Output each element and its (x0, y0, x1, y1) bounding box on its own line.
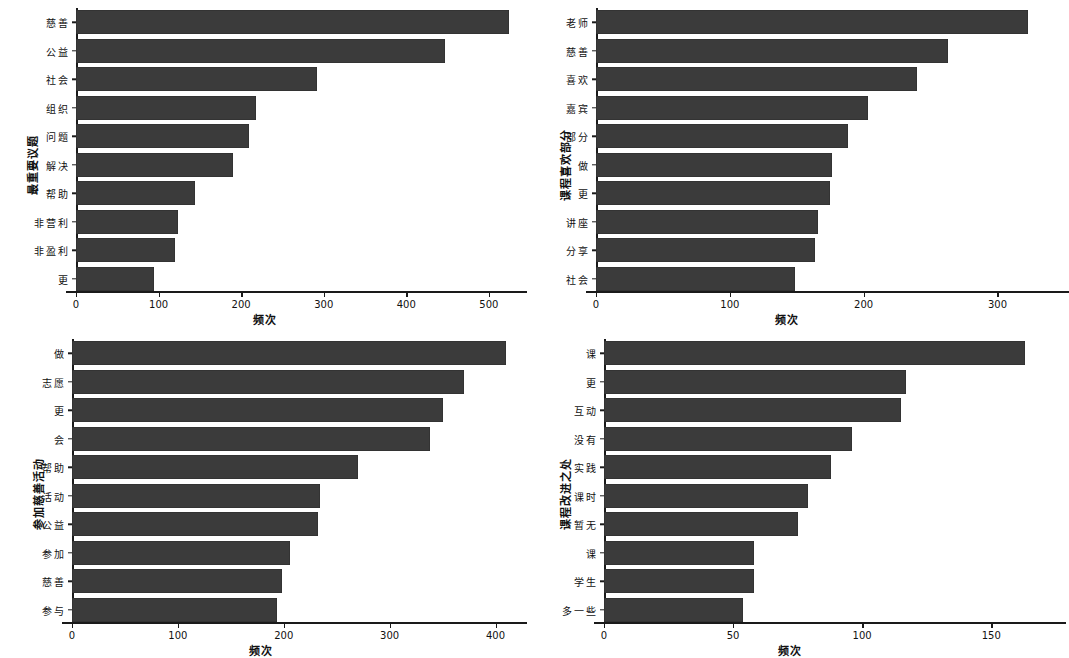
y-tick-mark (592, 50, 596, 51)
bar-row: 分享 (596, 236, 1051, 265)
x-tick-mark (406, 293, 407, 297)
y-axis-title: 最重要议题 (24, 135, 40, 195)
y-tick-mark (72, 250, 76, 251)
bar (596, 67, 917, 91)
bar (72, 370, 464, 394)
bar-row: 会 (72, 425, 522, 454)
y-tick-label: 慈善 (566, 43, 590, 58)
y-tick-mark (600, 609, 604, 610)
bar-row: 课时 (604, 482, 1048, 511)
bar (604, 398, 901, 422)
y-tick-mark (72, 107, 76, 108)
bar (604, 455, 831, 479)
bar (596, 96, 868, 120)
bar-row: 做 (596, 151, 1051, 180)
y-tick-label: 公益 (46, 43, 70, 58)
y-tick-mark (600, 410, 604, 411)
x-tick-mark (864, 293, 865, 297)
bar (604, 598, 743, 622)
x-tick-label: 0 (593, 299, 599, 310)
x-tick-container: 0100200300频次 (596, 293, 1051, 319)
y-tick-label: 更 (578, 186, 590, 201)
plot-area: 做志愿更会帮助活动公益参加慈善参与0100200300400频次 (72, 339, 522, 624)
bar (76, 210, 178, 234)
y-tick-mark (68, 524, 72, 525)
y-tick-mark (592, 164, 596, 165)
x-axis-title: 频次 (778, 642, 802, 658)
panel-bottom-right: 课程改进之处课更互动没有实践课时暂无课学生多一些050100150频次 (527, 329, 1055, 658)
y-tick-label: 解决 (46, 157, 70, 172)
bar (604, 569, 754, 593)
plot-area: 慈善公益社会组织问题解决帮助非营利非盈利更0100200300400500频次 (76, 8, 526, 293)
bar (72, 341, 506, 365)
bar (76, 153, 233, 177)
y-tick-mark (600, 438, 604, 439)
bar (76, 267, 154, 291)
x-tick-mark (284, 624, 285, 628)
y-tick-mark (68, 353, 72, 354)
y-tick-label: 课 (586, 545, 598, 560)
bar-row: 实践 (604, 453, 1048, 482)
bar-row: 喜欢 (596, 65, 1051, 94)
y-tick-mark (68, 467, 72, 468)
y-tick-mark (592, 107, 596, 108)
x-tick-label: 100 (149, 299, 168, 310)
bar-row: 志愿 (72, 368, 522, 397)
x-tick-mark (991, 624, 992, 628)
y-tick-label: 多一些 (562, 602, 598, 617)
y-tick-label: 课 (586, 346, 598, 361)
bar-row: 慈善 (596, 37, 1051, 66)
y-tick-mark (600, 581, 604, 582)
y-tick-label: 慈善 (42, 574, 66, 589)
bar (596, 39, 948, 63)
x-tick-label: 300 (380, 630, 399, 641)
x-axis-title: 频次 (249, 642, 273, 658)
bar-row: 问题 (76, 122, 526, 151)
y-tick-label: 更 (58, 271, 70, 286)
bar-row: 更 (72, 396, 522, 425)
x-tick-mark (862, 624, 863, 628)
bar (596, 10, 1028, 34)
y-tick-label: 做 (54, 346, 66, 361)
bar-row: 社会 (596, 265, 1051, 294)
y-tick-mark (72, 278, 76, 279)
y-tick-label: 互动 (574, 403, 598, 418)
y-tick-mark (592, 221, 596, 222)
bar (76, 124, 249, 148)
y-tick-label: 帮助 (42, 460, 66, 475)
y-tick-label: 活动 (42, 488, 66, 503)
y-tick-label: 参与 (42, 602, 66, 617)
y-tick-label: 志愿 (42, 374, 66, 389)
y-tick-mark (72, 221, 76, 222)
y-tick-label: 问题 (46, 129, 70, 144)
x-tick-mark (489, 293, 490, 297)
x-tick-label: 300 (314, 299, 333, 310)
bar (76, 10, 509, 34)
bar (72, 569, 282, 593)
y-tick-label: 老师 (566, 15, 590, 30)
bar-row: 非营利 (76, 208, 526, 237)
x-tick-mark (604, 624, 605, 628)
x-tick-mark (596, 293, 597, 297)
bar (72, 484, 320, 508)
x-tick-mark (159, 293, 160, 297)
plot-area: 课更互动没有实践课时暂无课学生多一些050100150频次 (604, 339, 1048, 624)
y-tick-label: 分享 (566, 243, 590, 258)
y-tick-mark (72, 79, 76, 80)
x-tick-mark (178, 624, 179, 628)
bar (76, 67, 317, 91)
y-tick-mark (600, 524, 604, 525)
y-tick-label: 部分 (566, 129, 590, 144)
x-tick-label: 0 (69, 630, 75, 641)
x-tick-label: 100 (168, 630, 187, 641)
panel-bottom-left: 参加慈善活动做志愿更会帮助活动公益参加慈善参与0100200300400频次 (0, 329, 527, 658)
bar-row: 社会 (76, 65, 526, 94)
bar-row: 参与 (72, 596, 522, 625)
y-tick-label: 讲座 (566, 214, 590, 229)
x-tick-label: 150 (982, 630, 1001, 641)
y-tick-label: 做 (578, 157, 590, 172)
y-tick-label: 组织 (46, 100, 70, 115)
x-tick-mark (733, 624, 734, 628)
y-tick-label: 嘉宾 (566, 100, 590, 115)
